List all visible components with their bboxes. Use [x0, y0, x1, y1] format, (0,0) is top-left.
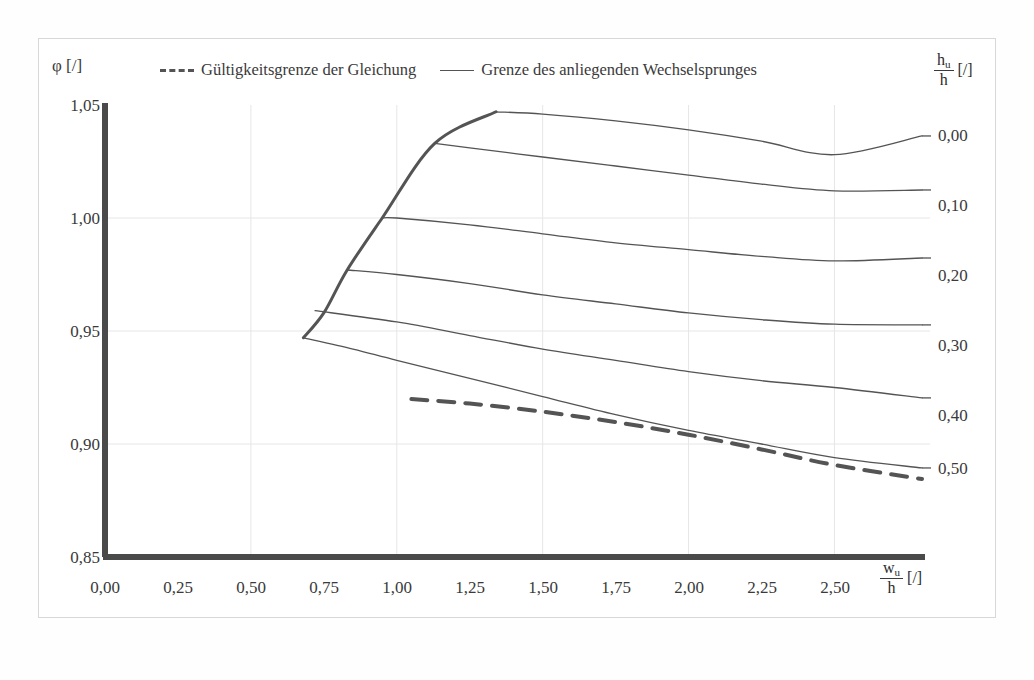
curve-lines	[303, 112, 922, 479]
axis-spines	[103, 103, 925, 557]
chart-figure: φ [/] Gültigkeitsgrenze der Gleichung Gr…	[0, 0, 1034, 680]
curve-validity-limit	[411, 399, 922, 479]
curve-0,10	[435, 143, 922, 191]
curve-0,20	[382, 217, 922, 260]
curve-0,30	[347, 270, 922, 325]
right-tick-marks	[922, 136, 931, 468]
curve-0,50	[303, 338, 922, 468]
plot-area	[0, 0, 1034, 680]
gridlines	[105, 105, 930, 557]
curve-0,00	[496, 112, 922, 155]
